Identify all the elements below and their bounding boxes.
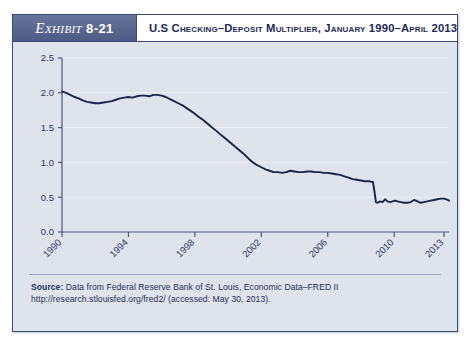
x-axis-tick-label: 1994 xyxy=(107,237,130,260)
x-axis-tick-label: 2002 xyxy=(240,237,263,260)
y-axis-tick-label: 1.0 xyxy=(41,157,54,168)
y-axis-tick-label: 2.5 xyxy=(41,52,54,63)
source-label: Source: xyxy=(31,282,63,292)
source-divider xyxy=(29,274,441,275)
y-axis-tick-label: 0.0 xyxy=(41,226,54,237)
line-chart: 0.00.51.01.52.02.5 199019941998200220062… xyxy=(13,42,459,274)
exhibit-title: U.S Checking–Deposit Multiplier, January… xyxy=(137,15,457,41)
x-axis-tick-label: 2010 xyxy=(373,237,396,260)
y-axis-ticks: 0.00.51.01.52.02.5 xyxy=(41,52,62,237)
y-axis-tick-label: 1.5 xyxy=(41,122,54,133)
y-axis-tick-label: 2.0 xyxy=(41,87,54,98)
exhibit-number: 8-21 xyxy=(86,21,114,36)
x-axis-tick-label: 1990 xyxy=(41,237,64,260)
data-series-line xyxy=(62,91,449,202)
x-axis-ticks: 1990199419982002200620102013 xyxy=(41,232,446,259)
exhibit-number-text: Exhibit 8-21 xyxy=(35,20,113,37)
exhibit-label: Exhibit xyxy=(35,20,82,36)
exhibit-panel: Exhibit 8-21 U.S Checking–Deposit Multip… xyxy=(12,14,458,332)
y-axis-tick-label: 0.5 xyxy=(41,192,54,203)
x-axis-tick-label: 2013 xyxy=(423,237,446,260)
source-note: Source: Data from Federal Reserve Bank o… xyxy=(31,281,441,306)
x-axis-tick-label: 2006 xyxy=(306,237,329,260)
x-axis-tick-label: 1998 xyxy=(174,237,197,260)
chart-gridlines xyxy=(62,58,449,197)
exhibit-number-tag: Exhibit 8-21 xyxy=(13,15,137,41)
source-text: Data from Federal Reserve Bank of St. Lo… xyxy=(31,282,338,304)
exhibit-header: Exhibit 8-21 U.S Checking–Deposit Multip… xyxy=(13,15,457,42)
chart-area: 0.00.51.01.52.02.5 199019941998200220062… xyxy=(13,42,457,274)
